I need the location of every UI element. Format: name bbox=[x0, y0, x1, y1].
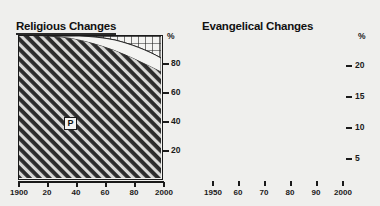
xtick-2000-evangelical bbox=[342, 181, 344, 186]
ytick-label-5-evangelical: 5 bbox=[355, 153, 360, 163]
ytick-label-40: 40 bbox=[171, 116, 180, 126]
ytick-60 bbox=[163, 92, 169, 94]
xtick-1950-evangelical bbox=[212, 181, 214, 186]
ytick-label-10-evangelical: 10 bbox=[355, 122, 364, 132]
ytick-label-80: 80 bbox=[171, 58, 180, 68]
xtick-label-20: 20 bbox=[38, 188, 56, 197]
ytick-label-15-evangelical: 15 bbox=[355, 91, 364, 101]
ytick-40 bbox=[163, 121, 169, 123]
ytick-label-20: 20 bbox=[171, 145, 180, 155]
xtick-label-80: 80 bbox=[125, 188, 143, 197]
ytick-15-evangelical bbox=[346, 96, 352, 98]
xtick-1970-evangelical bbox=[264, 181, 266, 186]
xtick-1900 bbox=[18, 182, 20, 187]
x-axis-line bbox=[18, 181, 164, 183]
y-axis-unit-label: % bbox=[167, 31, 175, 41]
region-label-p: P bbox=[64, 117, 77, 130]
religious-changes-plot: P bbox=[18, 35, 163, 180]
ytick-label-20-evangelical: 20 bbox=[355, 60, 364, 70]
xtick-label-60: 60 bbox=[96, 188, 114, 197]
ytick-5-evangelical bbox=[346, 158, 352, 160]
xtick-1920 bbox=[47, 182, 49, 187]
ytick-label-60: 60 bbox=[171, 87, 180, 97]
page-title-evangelical: Evangelical Changes bbox=[202, 20, 313, 32]
xtick-label-40: 40 bbox=[67, 188, 85, 197]
xtick-label-2000-evangelical: 2000 bbox=[330, 188, 356, 197]
xtick-1960 bbox=[105, 182, 107, 187]
y-axis-unit-label-evangelical: % bbox=[358, 31, 366, 41]
page-title: Religious Changes bbox=[16, 20, 116, 32]
panel-evangelical-changes: Evangelical Changes % 20 15 10 5 1950 60… bbox=[190, 0, 380, 206]
xtick-label-70-evangelical: 70 bbox=[255, 188, 273, 197]
xtick-label-1900: 1900 bbox=[6, 188, 32, 197]
religious-changes-areas bbox=[19, 36, 161, 178]
ytick-80 bbox=[163, 63, 169, 65]
xtick-label-60-evangelical: 60 bbox=[229, 188, 247, 197]
xtick-label-90-evangelical: 90 bbox=[307, 188, 325, 197]
xtick-1980-evangelical bbox=[290, 181, 292, 186]
xtick-1940 bbox=[76, 182, 78, 187]
xtick-label-1950: 1950 bbox=[200, 188, 226, 197]
panel-religious-changes: Religious Changes P % bbox=[0, 0, 190, 206]
xtick-1980 bbox=[134, 182, 136, 187]
xtick-2000 bbox=[163, 182, 165, 187]
xtick-label-2000: 2000 bbox=[151, 188, 177, 197]
xtick-1990-evangelical bbox=[316, 181, 318, 186]
ytick-20-evangelical bbox=[346, 65, 352, 67]
xtick-label-80-evangelical: 80 bbox=[281, 188, 299, 197]
xtick-1960-evangelical bbox=[238, 181, 240, 186]
ytick-20 bbox=[163, 150, 169, 152]
ytick-10-evangelical bbox=[346, 127, 352, 129]
